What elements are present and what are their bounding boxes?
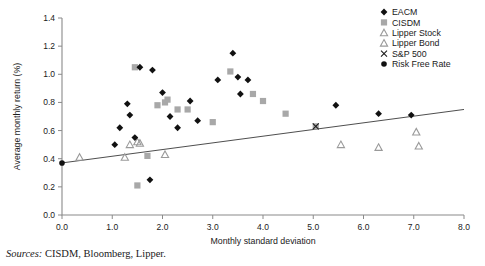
point-eacm-12	[194, 117, 201, 124]
point-eacm-7	[149, 67, 156, 74]
point-eacm-11	[187, 98, 194, 105]
point-lipper-stock-0	[126, 141, 133, 148]
point-eacm-0	[111, 141, 118, 148]
y-tick-label-0: 0.0	[43, 210, 55, 220]
point-cisdm-10	[250, 91, 256, 97]
point-eacm-16	[245, 77, 252, 84]
point-lipper-bond-2	[161, 151, 168, 158]
x-tick-label-5: 5.0	[307, 222, 319, 232]
legend-marker-2	[380, 29, 387, 36]
point-eacm-18	[332, 102, 339, 109]
point-cisdm-2	[144, 153, 150, 159]
point-eacm-10	[174, 124, 181, 131]
x-tick-label-4: 4.0	[257, 222, 269, 232]
point-cisdm-8	[210, 119, 216, 125]
point-cisdm-11	[260, 98, 266, 104]
x-axis-title: Monthly standard deviation	[210, 236, 315, 246]
chart-figure: 0.00.20.40.60.81.01.21.40.01.02.03.04.05…	[0, 0, 485, 266]
legend-marker-3	[380, 40, 387, 47]
point-eacm-4	[131, 134, 138, 141]
legend-label-3: Lipper Bond	[392, 38, 440, 48]
point-lipper-bond-4	[375, 144, 382, 151]
point-lipper-bond-0	[76, 154, 83, 161]
scatter-plot: 0.00.20.40.60.81.01.21.40.01.02.03.04.05…	[0, 0, 485, 266]
legend-marker-5	[381, 61, 387, 67]
point-lipper-bond-3	[337, 141, 344, 148]
point-cisdm-9	[227, 68, 233, 74]
x-tick-label-0: 0.0	[56, 222, 68, 232]
point-cisdm-7	[185, 106, 191, 112]
point-eacm-9	[167, 113, 174, 120]
x-tick-label-2: 2.0	[157, 222, 169, 232]
x-tick-label-6: 6.0	[358, 222, 370, 232]
point-eacm-19	[375, 110, 382, 117]
point-eacm-17	[237, 91, 244, 98]
x-tick-label-1: 1.0	[106, 222, 118, 232]
point-eacm-1	[116, 124, 123, 131]
y-axis-title: Average monthly return (%)	[12, 63, 22, 170]
y-tick-label-1: 0.2	[43, 182, 55, 192]
point-lipper-bond-5	[413, 128, 420, 135]
point-eacm-2	[124, 100, 131, 107]
legend-marker-1	[381, 19, 387, 25]
x-tick-label-8: 8.0	[458, 222, 470, 232]
y-tick-label-7: 1.4	[43, 13, 55, 23]
source-note-text: CISDM, Bloomberg, Lipper.	[45, 248, 166, 259]
point-cisdm-5	[164, 97, 170, 103]
y-tick-label-6: 1.2	[43, 41, 55, 51]
source-note-label: Sources:	[6, 248, 42, 259]
point-eacm-3	[126, 112, 133, 119]
point-eacm-8	[159, 89, 166, 96]
y-tick-label-4: 0.8	[43, 97, 55, 107]
legend-label-1: CISDM	[392, 18, 420, 28]
source-note: Sources: CISDM, Bloomberg, Lipper.	[6, 248, 166, 259]
point-cisdm-12	[283, 111, 289, 117]
legend-label-0: EACM	[392, 7, 417, 17]
x-tick-label-3: 3.0	[207, 222, 219, 232]
point-eacm-13	[214, 77, 221, 84]
legend-label-2: Lipper Stock	[392, 28, 441, 38]
legend-label-5: Risk Free Rate	[392, 59, 451, 69]
legend-marker-4	[381, 51, 387, 57]
x-tick-label-7: 7.0	[408, 222, 420, 232]
trend-line	[62, 109, 464, 162]
legend-marker-0	[381, 9, 388, 16]
point-cisdm-1	[134, 182, 140, 188]
point-eacm-6	[147, 176, 154, 183]
point-cisdm-3	[154, 102, 160, 108]
point-risk-free-rate-0	[59, 160, 65, 166]
y-tick-label-3: 0.6	[43, 126, 55, 136]
legend-label-4: S&P 500	[392, 49, 427, 59]
point-eacm-15	[234, 74, 241, 81]
point-eacm-20	[408, 112, 415, 119]
point-eacm-14	[229, 50, 236, 57]
y-tick-label-5: 1.0	[43, 69, 55, 79]
point-cisdm-6	[174, 106, 180, 112]
y-tick-label-2: 0.4	[43, 154, 55, 164]
point-lipper-bond-6	[415, 142, 422, 149]
